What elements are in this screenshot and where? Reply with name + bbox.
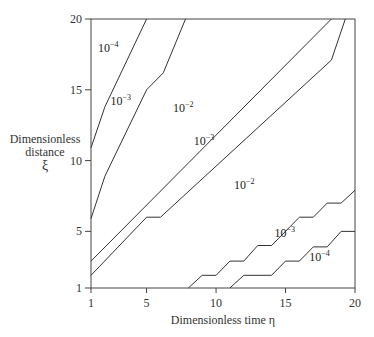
- x-tick-label: 1: [88, 296, 94, 310]
- plot-frame: [91, 19, 355, 288]
- x-tick-label: 5: [144, 296, 150, 310]
- contour-line: [91, 19, 345, 275]
- y-axis-title-line3: ξ: [42, 158, 48, 173]
- region-label: 10−3: [110, 93, 131, 108]
- y-tick-label: 20: [70, 12, 82, 26]
- axis-ticks: 1510152015101520: [70, 12, 361, 310]
- x-tick-label: 20: [349, 296, 361, 310]
- x-axis-title: Dimensionless time η: [171, 313, 275, 327]
- contour-line: [230, 231, 355, 288]
- y-axis-title-line1: Dimensionless: [10, 132, 81, 146]
- plot-border: [91, 19, 355, 288]
- y-axis-title-line2: distance: [25, 145, 64, 159]
- contour-chart: 1510152015101520 10−410−310−210−310−210−…: [0, 0, 374, 337]
- region-label: 10−3: [194, 133, 215, 148]
- x-tick-label: 15: [280, 296, 292, 310]
- contour-line: [91, 19, 147, 148]
- region-label: 10−2: [173, 100, 194, 115]
- y-tick-label: 5: [76, 224, 82, 238]
- y-tick-label: 1: [76, 281, 82, 295]
- contour-lines: [91, 19, 355, 288]
- contour-line: [188, 190, 355, 288]
- y-tick-label: 15: [70, 83, 82, 97]
- x-tick-label: 10: [210, 296, 222, 310]
- region-labels: 10−410−310−210−310−210−310−4: [98, 40, 330, 265]
- region-label: 10−3: [274, 225, 295, 240]
- region-label: 10−4: [98, 40, 119, 55]
- region-label: 10−4: [309, 249, 330, 264]
- y-tick-label: 10: [70, 154, 82, 168]
- region-label: 10−2: [234, 177, 255, 192]
